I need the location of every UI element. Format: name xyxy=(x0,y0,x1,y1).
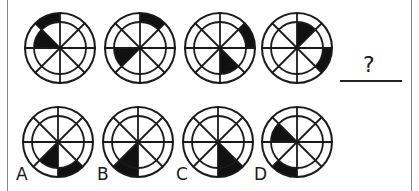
sequence-figure-4 xyxy=(262,13,332,83)
option-figure-a[interactable] xyxy=(23,107,93,177)
option-figure-d[interactable] xyxy=(262,107,332,177)
option-label-b[interactable]: B xyxy=(97,166,109,183)
question-mark: ? xyxy=(363,52,375,77)
sequence-figure-3 xyxy=(185,13,255,83)
sequence-row xyxy=(25,13,332,83)
sequence-figure-2 xyxy=(105,13,175,83)
sequence-figure-1 xyxy=(25,13,95,83)
answer-blank-line xyxy=(340,80,402,82)
option-label-a[interactable]: A xyxy=(16,166,28,183)
option-label-c[interactable]: C xyxy=(176,166,188,183)
option-label-d[interactable]: D xyxy=(254,166,267,183)
option-figure-b[interactable] xyxy=(103,107,173,177)
puzzle-figures xyxy=(0,0,419,191)
option-figure-c[interactable] xyxy=(183,107,253,177)
